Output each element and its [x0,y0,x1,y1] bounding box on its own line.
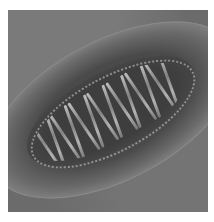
micrograph-frame [8,10,208,212]
